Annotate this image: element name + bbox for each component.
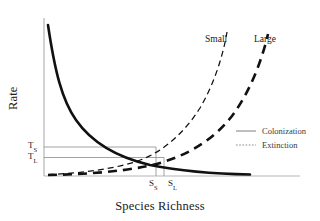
y-tick-tl-sub: L bbox=[34, 157, 38, 164]
x-tick-label-sl: SL bbox=[168, 179, 177, 190]
curve-label-large: Large bbox=[254, 35, 276, 45]
extinction-curve-small bbox=[48, 32, 227, 175]
colonization-curve bbox=[48, 25, 250, 175]
figure-container: Rate Species Richness Small Large TS TL … bbox=[0, 0, 320, 221]
x-tick-ss-sub: S bbox=[154, 184, 158, 191]
y-axis-title: Rate bbox=[7, 68, 20, 128]
x-tick-sl-sub: L bbox=[173, 184, 177, 191]
extinction-curve-large bbox=[48, 34, 268, 175]
legend-label-colonization: Colonization bbox=[262, 127, 306, 136]
y-tick-label-tl: TL bbox=[28, 152, 37, 163]
x-axis-title: Species Richness bbox=[0, 200, 320, 213]
y-tick-tl-base: T bbox=[28, 151, 34, 161]
y-tick-ts-base: T bbox=[28, 140, 34, 150]
x-tick-label-ss: SS bbox=[149, 179, 158, 190]
curve-label-small: Small bbox=[205, 35, 227, 45]
legend-label-extinction: Extinction bbox=[262, 141, 297, 150]
